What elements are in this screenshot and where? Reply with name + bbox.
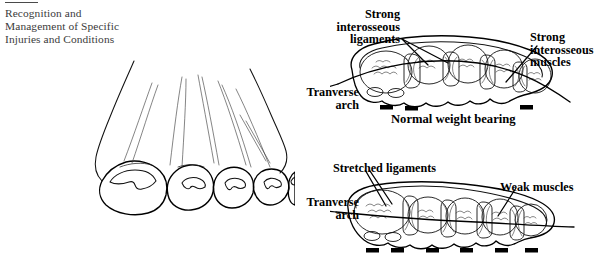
- running-head-rule: [5, 2, 38, 3]
- leader-stretched-2: [368, 170, 392, 204]
- label-strong-interosseous-muscles: Strong interosseous muscles: [530, 31, 593, 69]
- weight-mark: [525, 248, 538, 253]
- caption-normal-weight-bearing: Normal weight bearing: [391, 113, 516, 126]
- label-strong-interosseous-ligaments: Strong interosseous ligaments: [337, 8, 400, 46]
- running-head-line-1: Recognition and: [5, 7, 155, 20]
- label-line: muscles: [530, 56, 593, 69]
- weight-mark: [405, 106, 418, 111]
- weight-mark: [426, 248, 439, 253]
- label-stretched-ligaments: Stretched ligaments: [333, 162, 436, 175]
- label-tranverse-arch-bottom: Tranverse arch: [287, 196, 359, 221]
- label-line: ligaments: [337, 33, 400, 46]
- foot-line-drawing: [90, 55, 295, 220]
- label-tranverse-arch-top: Tranverse arch: [291, 86, 359, 111]
- label-line: arch: [287, 209, 359, 222]
- leader-stretched-1: [364, 170, 386, 206]
- weight-mark: [460, 248, 473, 253]
- running-head: Recognition and Management of Specific I…: [5, 2, 155, 46]
- weight-mark: [391, 248, 404, 253]
- weight-mark: [520, 105, 533, 110]
- running-head-line-3: Injuries and Conditions: [5, 33, 155, 46]
- weight-mark: [366, 248, 379, 253]
- transverse-arch-line: [336, 212, 574, 227]
- label-line: Tranverse: [287, 196, 359, 209]
- label-weak-muscles: Weak muscles: [500, 181, 573, 194]
- label-line: Strong: [337, 8, 400, 21]
- label-line: Strong: [530, 31, 593, 44]
- figure-page: Recognition and Management of Specific I…: [0, 0, 605, 258]
- label-line: Tranverse: [291, 86, 359, 99]
- weight-mark: [380, 105, 393, 110]
- weight-mark: [495, 248, 508, 253]
- label-line: arch: [291, 99, 359, 112]
- bone-texture: [372, 59, 541, 80]
- foot-svg: [90, 55, 295, 220]
- running-head-line-2: Management of Specific: [5, 20, 155, 33]
